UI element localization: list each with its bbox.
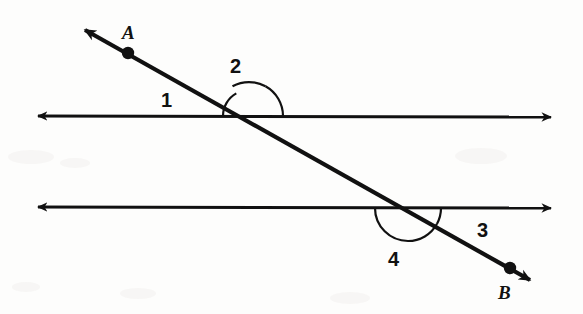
angle-3-arc (437, 208, 441, 224)
transversal-line (85, 30, 530, 280)
upper-parallel-line (38, 116, 551, 117)
lower-parallel-line (38, 207, 551, 208)
angle-2-label: 2 (230, 56, 241, 76)
point-b-label: B (498, 283, 511, 302)
point-a-label: A (122, 23, 135, 42)
angle-4-arc (375, 208, 408, 241)
point-b-dot (504, 262, 516, 274)
angle-3-label: 3 (477, 220, 488, 240)
angle-1-label: 1 (161, 90, 172, 110)
geometry-figure: A B 1 2 3 4 (0, 0, 583, 314)
angle-4-label: 4 (388, 249, 399, 269)
angle-2-arc (233, 82, 266, 86)
diagram-canvas (0, 0, 583, 314)
angle-2-arc (266, 86, 284, 116)
point-a-dot (122, 47, 134, 59)
